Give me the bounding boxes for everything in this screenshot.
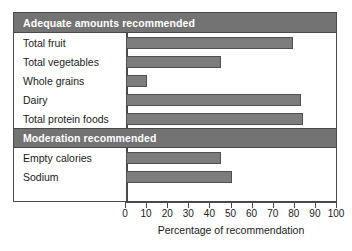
x-axis-tick-label: 30	[183, 208, 194, 219]
x-axis-tick-label: 10	[141, 208, 152, 219]
category-label: Total protein foods	[23, 113, 109, 125]
x-axis-tick-label: 50	[225, 208, 236, 219]
category-label: Empty calories	[23, 152, 92, 164]
x-axis-tick-label: 70	[267, 208, 278, 219]
category-label: Whole grains	[23, 75, 84, 87]
x-axis-tick-label: 80	[288, 208, 299, 219]
x-axis-tick-label: 20	[162, 208, 173, 219]
chart-row: Sodium	[14, 167, 336, 186]
bar	[126, 75, 147, 87]
bar	[126, 56, 221, 68]
chart-row: Total vegetables	[14, 52, 336, 71]
x-axis-title: Percentage of recommendation	[125, 224, 337, 236]
bar	[126, 94, 301, 106]
bar	[126, 152, 221, 164]
x-axis: 0102030405060708090100	[125, 202, 337, 204]
category-label: Sodium	[23, 171, 59, 183]
x-axis-tick-label: 40	[204, 208, 215, 219]
group-header-label: Adequate amounts recommended	[14, 17, 195, 29]
category-label: Total fruit	[23, 37, 66, 49]
bar	[126, 171, 232, 183]
bar	[126, 113, 303, 125]
group-header-label: Moderation recommended	[14, 132, 156, 144]
category-label: Total vegetables	[23, 56, 99, 68]
bar	[126, 37, 293, 49]
chart-row: Dairy	[14, 90, 336, 109]
x-axis-tick-label: 100	[328, 208, 345, 219]
bar-chart-frame: Adequate amounts recommendedTotal fruitT…	[13, 12, 337, 202]
category-label: Dairy	[23, 94, 48, 106]
chart-row: Empty calories	[14, 148, 336, 167]
chart-row: Total fruit	[14, 33, 336, 52]
group-header-band: Adequate amounts recommended	[14, 13, 336, 33]
x-axis-tick-label: 60	[246, 208, 257, 219]
x-axis-tick-label: 0	[122, 208, 128, 219]
chart-row: Total protein foods	[14, 109, 336, 128]
group-header-band: Moderation recommended	[14, 128, 336, 148]
x-axis-tick-label: 90	[309, 208, 320, 219]
chart-row: Whole grains	[14, 71, 336, 90]
